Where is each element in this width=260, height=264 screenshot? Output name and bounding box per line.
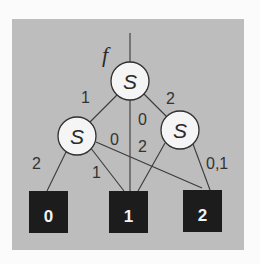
node-right: S	[161, 111, 199, 149]
edge-label-root-leaf1: 0	[138, 111, 147, 128]
node-root-label: S	[123, 70, 137, 93]
edge-label-root-left: 1	[81, 89, 90, 106]
node-right-label: S	[173, 119, 187, 142]
leaf-2: 2	[183, 190, 222, 232]
node-root: S	[111, 62, 149, 100]
edge-label-left-leaf0: 2	[32, 155, 41, 172]
edge-label-left-leaf2: 0	[110, 131, 119, 148]
node-left-label: S	[70, 125, 84, 148]
leaf-2-label: 2	[198, 206, 207, 225]
leaf-1-label: 1	[124, 207, 133, 226]
leaf-0-label: 0	[44, 207, 53, 226]
decision-diagram: f 1 2 0 0 2 2 1 0,1 S S S 0 1 2	[0, 0, 260, 264]
node-left: S	[58, 117, 96, 155]
edge-label-right-leaf2: 0,1	[206, 155, 228, 172]
edge-label-right-leaf1: 2	[138, 138, 147, 155]
leaf-1: 1	[109, 191, 148, 233]
leaf-0: 0	[29, 191, 68, 233]
edge-label-root-right: 2	[166, 90, 175, 107]
edge-label-left-leaf1: 1	[92, 164, 101, 181]
